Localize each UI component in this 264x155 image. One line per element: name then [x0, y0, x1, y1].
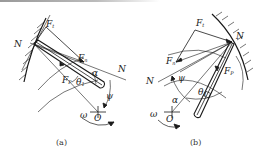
panel-a-labels: N Ft Fn N FP α θ1 ψ ω O (a) — [13, 19, 127, 147]
svg-text:Fn: Fn — [77, 53, 87, 63]
panel-a — [19, 15, 126, 126]
svg-text:N: N — [145, 76, 155, 86]
svg-text:FP: FP — [61, 75, 72, 85]
label-N-right-a: N — [117, 64, 127, 74]
svg-text:N: N — [117, 64, 127, 74]
svg-text:FP: FP — [223, 66, 234, 76]
panel-b — [158, 12, 253, 129]
svg-text:θ1: θ1 — [76, 77, 85, 87]
svg-text:N: N — [235, 31, 245, 41]
caption-b: (b) — [190, 138, 201, 147]
svg-text:ψ: ψ — [178, 73, 186, 83]
svg-text:Ft: Ft — [45, 19, 55, 29]
svg-text:Fn: Fn — [165, 56, 175, 66]
svg-text:O: O — [94, 113, 102, 123]
svg-text:O: O — [166, 114, 174, 124]
svg-text:Ft: Ft — [195, 18, 205, 28]
caption-a: (a) — [56, 138, 67, 147]
label-N-left-b: N — [145, 76, 155, 86]
svg-text:ω: ω — [150, 109, 158, 119]
label-N-left-a: N — [13, 39, 23, 49]
svg-text:θ1: θ1 — [198, 87, 207, 97]
svg-text:N: N — [13, 39, 23, 49]
svg-text:ω: ω — [80, 110, 88, 120]
label-N-right-b: N — [235, 31, 245, 41]
force-diagram: N Ft Fn N FP α θ1 ψ ω O (a) — [0, 0, 264, 155]
svg-text:ψ: ψ — [106, 91, 114, 101]
svg-text:α: α — [172, 95, 178, 105]
svg-text:α: α — [92, 68, 98, 78]
panel-b-labels: Ft N Fn FP N ψ θ1 α ω O (b) — [145, 18, 245, 147]
